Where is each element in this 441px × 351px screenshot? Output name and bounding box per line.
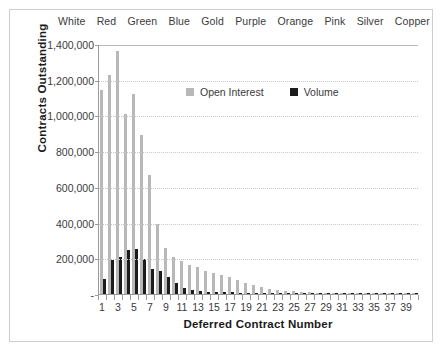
bar-open-interest-13: [196, 267, 199, 294]
bar-volume-16: [223, 292, 226, 294]
x-axis-tick-label: 15: [208, 301, 220, 313]
bar-volume-8: [159, 271, 162, 294]
x-axis-tick: [106, 295, 107, 300]
color-axis-label-orange: Orange: [278, 15, 314, 27]
bar-open-interest-2: [108, 75, 111, 294]
gridline: [99, 259, 418, 260]
y-axis-tick-label: 1,400,000: [47, 39, 94, 51]
y-axis-tick: [95, 152, 99, 153]
x-axis-tick-label: 37: [384, 301, 396, 313]
x-axis-tick: [410, 295, 411, 300]
x-axis-tick: [290, 295, 291, 300]
x-axis-tick-label: 23: [272, 301, 284, 313]
y-axis-tick-label: -: [91, 289, 95, 301]
y-axis-tick: [95, 259, 99, 260]
bar-volume-29: [327, 293, 330, 294]
color-axis-label-silver: Silver: [357, 15, 384, 27]
bar-open-interest-9: [164, 248, 167, 294]
x-axis-tick: [330, 295, 331, 300]
bar-volume-15: [215, 292, 218, 294]
color-axis-label-green: Green: [128, 15, 158, 27]
x-axis-tick-label: 27: [304, 301, 316, 313]
x-axis-tick: [306, 295, 307, 300]
x-axis-tick-label: 21: [256, 301, 268, 313]
y-axis-tick: [95, 188, 99, 189]
color-axis-label-gold: Gold: [201, 15, 224, 27]
chart-legend: Open InterestVolume: [186, 86, 339, 98]
x-axis-tick: [202, 295, 203, 300]
x-axis-title: Deferred Contract Number: [98, 318, 418, 330]
bar-open-interest-29: [324, 293, 327, 294]
x-axis-tick: [266, 295, 267, 300]
bar-open-interest-21: [260, 287, 263, 294]
x-axis-tick: [298, 295, 299, 300]
bar-volume-24: [287, 293, 290, 294]
bar-volume-26: [303, 293, 306, 294]
x-axis-tick: [378, 295, 379, 300]
gridline: [99, 152, 418, 153]
x-axis-tick: [418, 295, 419, 300]
x-axis-tick: [362, 295, 363, 300]
x-axis-tick: [146, 295, 147, 300]
legend-entry-open-interest: Open Interest: [186, 86, 264, 98]
bar-volume-25: [295, 293, 298, 294]
legend-label: Volume: [304, 86, 339, 98]
bar-volume-33: [359, 293, 362, 294]
bar-open-interest-26: [300, 292, 303, 294]
color-axis-label-blue: Blue: [169, 15, 190, 27]
bar-volume-4: [127, 250, 130, 294]
x-axis-tick-label: 25: [288, 301, 300, 313]
x-axis-tick: [186, 295, 187, 300]
bar-volume-40: [415, 293, 418, 294]
bar-volume-12: [191, 290, 194, 294]
bar-volume-31: [343, 293, 346, 294]
bar-open-interest-10: [172, 257, 175, 294]
bar-open-interest-28: [316, 293, 319, 294]
bar-open-interest-3: [116, 51, 119, 294]
x-axis-tick-label: 33: [352, 301, 364, 313]
bar-volume-21: [263, 293, 266, 294]
x-axis-tick: [370, 295, 371, 300]
y-axis-tick-label: 1,000,000: [47, 110, 94, 122]
bar-open-interest-4: [124, 114, 127, 294]
bar-volume-5: [135, 249, 138, 294]
x-axis-tick: [242, 295, 243, 300]
bar-volume-20: [255, 293, 258, 294]
bar-open-interest-34: [364, 293, 367, 294]
bar-open-interest-37: [388, 293, 391, 294]
bar-open-interest-32: [348, 293, 351, 294]
x-axis-tick-label: 7: [147, 301, 153, 313]
x-axis-tick: [226, 295, 227, 300]
x-axis-tick-label: 29: [320, 301, 332, 313]
x-axis-tick: [170, 295, 171, 300]
x-axis-tick-label: 5: [131, 301, 137, 313]
bar-open-interest-17: [228, 277, 231, 294]
x-axis-tick: [130, 295, 131, 300]
x-axis-tick-labels: 13579111315171921232527293133353739: [98, 301, 418, 315]
y-axis-tick-label: 1,200,000: [47, 75, 94, 87]
bar-open-interest-11: [180, 261, 183, 294]
x-axis-tick: [218, 295, 219, 300]
bar-open-interest-27: [308, 292, 311, 294]
bar-open-interest-23: [276, 290, 279, 294]
color-axis-label-purple: Purple: [235, 15, 266, 27]
x-axis-tick: [386, 295, 387, 300]
bar-volume-35: [375, 293, 378, 294]
x-axis-tick: [314, 295, 315, 300]
bar-volume-7: [151, 269, 154, 294]
x-axis-tick: [210, 295, 211, 300]
x-axis-tick: [114, 295, 115, 300]
x-axis-tick: [98, 295, 99, 300]
bar-open-interest-31: [340, 293, 343, 294]
x-axis-tick: [162, 295, 163, 300]
bar-volume-1: [103, 279, 106, 294]
bar-open-interest-19: [244, 283, 247, 294]
bar-volume-23: [279, 293, 282, 294]
gridline: [99, 188, 418, 189]
x-axis-tick-label: 19: [240, 301, 252, 313]
y-axis-tick-labels: -200,000400,000600,000800,0001,000,0001,…: [28, 45, 94, 295]
bar-open-interest-33: [356, 293, 359, 294]
bar-volume-18: [239, 293, 242, 294]
bar-open-interest-7: [148, 175, 151, 294]
bar-volume-10: [175, 283, 178, 294]
